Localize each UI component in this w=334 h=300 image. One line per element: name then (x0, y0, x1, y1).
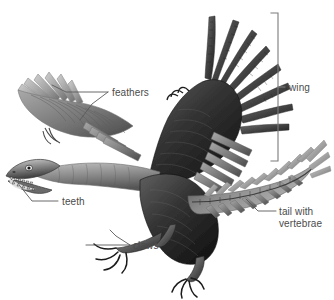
label-teeth: teeth (62, 196, 85, 207)
archaeopteryx-figure: feathers wing teeth claws tail with vert… (0, 0, 334, 300)
label-tail-line-1: tail with (279, 206, 313, 217)
label-feathers: feathers (112, 87, 149, 98)
label-wing: wing (288, 82, 310, 93)
label-tail-line-2: vertebrae (279, 218, 322, 229)
label-claws: claws (133, 240, 159, 251)
